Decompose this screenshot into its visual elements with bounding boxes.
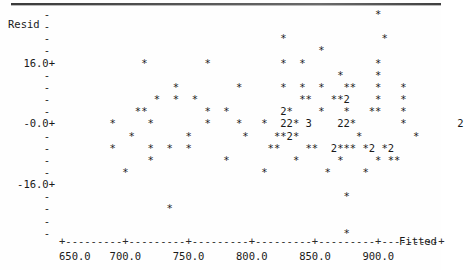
plot-row: - * * * * * **: [0, 154, 441, 167]
plot-row: -: [0, 215, 441, 228]
y-axis-minor-tick: -: [0, 215, 50, 228]
plot-row-marks: * *: [59, 32, 388, 45]
plot-row: - * * * * ** ** 2*** *2 *2: [0, 142, 441, 155]
plot-row: - *: [0, 190, 441, 203]
y-axis-minor-tick: -: [0, 81, 50, 94]
y-axis-minor-tick: -: [0, 130, 50, 143]
y-axis-minor-tick: -: [0, 227, 50, 240]
plot-row: - * * * * * ** * *: [0, 81, 441, 94]
plot-row: - * * * **2* * *: [0, 130, 441, 143]
plot-row: - *: [0, 8, 441, 21]
plot-row-marks: *: [59, 202, 173, 215]
plot-row: - *: [0, 202, 441, 215]
plot-row-marks: *: [59, 190, 350, 203]
plot-row-marks: * * * ** **2 * *: [59, 93, 407, 106]
plot-row-marks: *: [59, 8, 381, 21]
plot-row-marks: * * * * * ** * *: [59, 81, 407, 94]
plot-row-marks: * * * **2* * *: [59, 130, 419, 143]
plot-row-marks: * *: [59, 69, 381, 82]
plot-row: - * *: [0, 32, 441, 45]
plot-row: -0.0+ * * * * * 22* 3 22* * 2: [0, 117, 441, 130]
plot-row: 16.0+ * * * * *: [0, 57, 441, 70]
plot-row-marks: ** * * 2* * * ** *: [59, 105, 407, 118]
y-axis-minor-tick: -: [0, 190, 50, 203]
plot-row-marks: * * * * *: [59, 57, 381, 70]
y-axis-minor-tick: -: [0, 154, 50, 167]
y-axis-minor-tick: -: [0, 166, 50, 179]
x-axis-name: Fitted: [399, 235, 437, 248]
y-axis-minor-tick: -: [0, 32, 50, 45]
plot-row-marks: * * * * * **: [59, 154, 400, 167]
plot-row: - * *: [0, 69, 441, 82]
x-axis-line: +---------+---------+---------+---------…: [59, 235, 404, 248]
plot-row: - ** * * 2* * * ** *: [0, 105, 441, 118]
plot-row-marks: * * * *: [59, 166, 369, 179]
x-axis-tick-labels: 650.0 700.0 750.0 800.0 850.0 900.0: [59, 250, 439, 263]
y-axis-tick-label: -0.0+: [0, 117, 55, 130]
y-axis-minor-tick: -: [0, 44, 50, 57]
plot-row-marks: * * * * ** ** 2*** *2 *2: [59, 142, 394, 155]
plot-row: - * * * *: [0, 166, 441, 179]
plot-row: - * * * ** **2 * *: [0, 93, 441, 106]
plot-row: -16.0+: [0, 178, 441, 191]
plot-row-marks: *: [59, 44, 325, 57]
y-axis-minor-tick: -: [0, 93, 50, 106]
y-axis-minor-tick: -: [0, 20, 50, 33]
y-axis-tick-label: 16.0+: [0, 57, 55, 70]
plot-row: - *: [0, 44, 441, 57]
y-axis-minor-tick: -: [0, 202, 50, 215]
y-axis-tick-label: -16.0+: [0, 178, 55, 191]
y-axis-minor-tick: -: [0, 105, 50, 118]
y-axis-minor-tick: -: [0, 69, 50, 82]
y-axis-minor-tick: -: [0, 142, 50, 155]
y-axis-minor-tick: -: [0, 8, 50, 21]
plot-row-marks: * * * * * 22* 3 22* * 2: [59, 117, 464, 130]
plot-row: -: [0, 20, 441, 33]
